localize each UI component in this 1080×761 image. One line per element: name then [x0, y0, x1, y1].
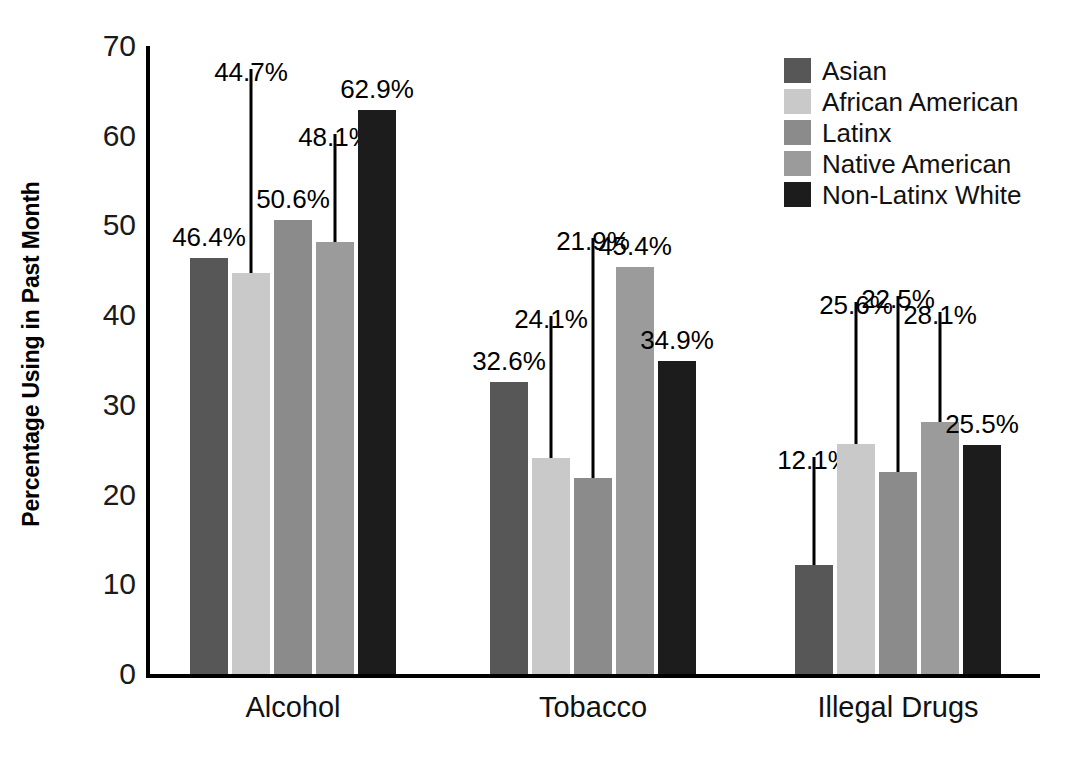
y-axis-tick-0: 0 [82, 659, 136, 689]
leader-line [813, 457, 816, 565]
legend-swatch-icon [784, 120, 811, 145]
value-label: 45.4% [598, 233, 672, 259]
y-axis-tick-20: 20 [82, 480, 136, 510]
y-axis-tick-10: 10 [82, 569, 136, 599]
value-label: 34.9% [640, 327, 714, 353]
bar-illegal-drugs-african-american[interactable] [837, 444, 875, 674]
value-label: 32.6% [472, 348, 546, 374]
bar-illegal-drugs-non-latinx-white[interactable] [963, 445, 1001, 674]
x-axis-label-tobacco: Tobacco [539, 690, 647, 724]
y-axis-tick-40: 40 [82, 300, 136, 330]
leader-line [250, 69, 253, 273]
value-label: 50.6% [256, 186, 330, 212]
legend-swatch-icon [784, 89, 811, 114]
x-axis-line [146, 674, 1040, 678]
value-label: 62.9% [340, 76, 414, 102]
legend-item-label: Native American [822, 150, 1011, 178]
leader-line [855, 302, 858, 444]
leader-line [550, 316, 553, 458]
bar-chart: Percentage Using in Past Month 706050403… [0, 0, 1080, 761]
legend-item-non-latinx-white[interactable]: Non-Latinx White [784, 179, 1074, 210]
y-axis-tick-70: 70 [82, 31, 136, 61]
leader-line [897, 296, 900, 472]
bar-alcohol-non-latinx-white[interactable] [358, 110, 396, 674]
y-axis-tick-50: 50 [82, 210, 136, 240]
value-label: 46.4% [172, 224, 246, 250]
bar-tobacco-african-american[interactable] [532, 458, 570, 674]
legend-item-label: Non-Latinx White [822, 181, 1021, 209]
legend-item-latinx[interactable]: Latinx [784, 117, 1074, 148]
y-axis-tick-60: 60 [82, 121, 136, 151]
bar-alcohol-latinx[interactable] [274, 220, 312, 674]
legend-item-asian[interactable]: Asian [784, 55, 1074, 86]
bar-tobacco-asian[interactable] [490, 382, 528, 674]
bar-illegal-drugs-native-american[interactable] [921, 422, 959, 674]
legend-swatch-icon [784, 182, 811, 207]
leader-line [592, 238, 595, 478]
x-axis-label-alcohol: Alcohol [245, 690, 340, 724]
legend-swatch-icon [784, 58, 811, 83]
bar-alcohol-native-american[interactable] [316, 242, 354, 674]
legend-item-african-american[interactable]: African American [784, 86, 1074, 117]
legend-item-label: Latinx [822, 119, 891, 147]
bar-alcohol-african-american[interactable] [232, 273, 270, 674]
y-axis-title: Percentage Using in Past Month [14, 54, 48, 654]
bar-illegal-drugs-asian[interactable] [795, 565, 833, 674]
legend-item-label: Asian [822, 57, 887, 85]
x-axis-label-illegal-drugs: Illegal Drugs [817, 690, 978, 724]
bar-tobacco-latinx[interactable] [574, 478, 612, 674]
leader-line [939, 312, 942, 422]
legend-item-native-american[interactable]: Native American [784, 148, 1074, 179]
legend: AsianAfrican AmericanLatinxNative Americ… [784, 55, 1074, 210]
y-axis-tick-30: 30 [82, 390, 136, 420]
legend-swatch-icon [784, 151, 811, 176]
leader-line [334, 134, 337, 242]
legend-item-label: African American [822, 88, 1019, 116]
value-label: 25.5% [945, 411, 1019, 437]
bar-tobacco-non-latinx-white[interactable] [658, 361, 696, 674]
bar-illegal-drugs-latinx[interactable] [879, 472, 917, 674]
bar-alcohol-asian[interactable] [190, 258, 228, 674]
y-axis-tick-labels: 706050403020100 [74, 0, 136, 761]
